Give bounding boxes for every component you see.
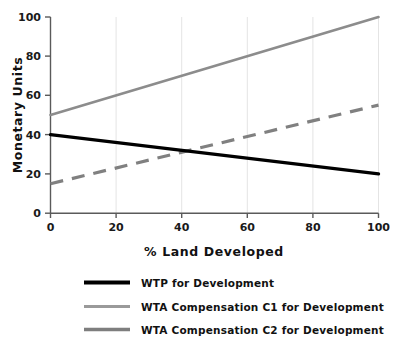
legend-label-wta-c2: WTA Compensation C2 for Development [141, 324, 384, 336]
x-tick-label-60: 60 [240, 221, 256, 234]
legend-label-wtp: WTP for Development [141, 277, 274, 289]
line-chart: 0 20 40 60 80 100 0 20 40 60 80 100 % La… [0, 0, 405, 342]
x-axis-title: % Land Developed [144, 244, 284, 259]
y-tick-label-0: 0 [33, 207, 41, 220]
y-tick-label-100: 100 [18, 11, 41, 24]
x-tick-label-20: 20 [108, 221, 124, 234]
legend-label-wta-c1: WTA Compensation C1 for Development [141, 301, 384, 313]
y-tick-label-80: 80 [26, 50, 42, 63]
x-tick-label-40: 40 [174, 221, 190, 234]
y-axis-title: Monetary Units [10, 57, 25, 174]
chart-figure: 0 20 40 60 80 100 0 20 40 60 80 100 % La… [0, 0, 405, 342]
x-tick-label-0: 0 [47, 221, 55, 234]
y-tick-label-20: 20 [26, 168, 42, 181]
y-tick-label-60: 60 [26, 89, 42, 102]
y-tick-label-40: 40 [26, 129, 42, 142]
x-tick-label-80: 80 [305, 221, 321, 234]
x-tick-label-100: 100 [367, 221, 390, 234]
